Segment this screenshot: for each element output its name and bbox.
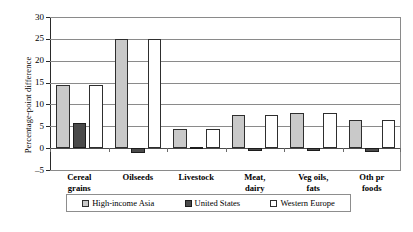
y-axis-tick-label: 30 <box>4 13 44 22</box>
y-axis-tick <box>46 17 50 18</box>
legend-swatch-icon <box>82 200 89 207</box>
bar-we <box>89 85 103 148</box>
x-axis-tick <box>50 148 51 152</box>
bar-we <box>323 113 337 148</box>
bar-we <box>206 129 220 148</box>
category-label-line1: Oilseeds <box>122 172 153 182</box>
chart-legend: High-income AsiaUnited StatesWestern Eur… <box>66 194 351 212</box>
legend-label: United States <box>195 199 241 208</box>
bar-hia <box>56 85 70 148</box>
gridline <box>50 170 401 171</box>
category-label-line2: grains <box>50 183 109 194</box>
legend-item[interactable]: United States <box>185 199 241 208</box>
category-label-line1: Cereal <box>67 172 91 182</box>
y-axis-tick-label: 20 <box>4 56 44 65</box>
legend-item[interactable]: Western Europe <box>270 199 334 208</box>
category-label-line1: Meat, <box>244 172 265 182</box>
bar-us <box>307 148 321 151</box>
bar-hia <box>290 113 304 148</box>
legend-label: High-income Asia <box>92 199 154 208</box>
x-axis-category-label: Oilseeds <box>109 172 168 183</box>
y-axis-tick-label: 25 <box>4 34 44 43</box>
bar-us <box>73 123 87 148</box>
plot-area: 302520151050–5 <box>50 17 401 170</box>
category-label-line1: Livestock <box>179 172 214 182</box>
bar-we <box>265 115 279 148</box>
y-axis-tick <box>46 61 50 62</box>
y-axis-tick-label: –5 <box>4 166 44 175</box>
x-axis-category-label: Oth prfoods <box>343 172 402 193</box>
gridline <box>50 39 401 40</box>
bar-chart: Percentage-point difference 302520151050… <box>0 0 413 232</box>
gridline <box>50 61 401 62</box>
gridline <box>50 17 401 18</box>
y-axis-line <box>50 17 51 170</box>
category-label-line2: foods <box>343 183 402 194</box>
bar-us <box>365 148 379 151</box>
x-axis-tick <box>109 148 110 152</box>
legend-swatch-icon <box>185 200 192 207</box>
bar-we <box>148 39 162 148</box>
x-axis-tick <box>226 148 227 152</box>
bar-we <box>382 120 396 148</box>
legend-label: Western Europe <box>280 199 334 208</box>
x-axis-tick <box>167 148 168 152</box>
category-label-line1: Oth pr <box>359 172 384 182</box>
x-axis-tick <box>284 148 285 152</box>
y-axis-tick <box>46 104 50 105</box>
gridline <box>50 83 401 84</box>
x-axis-category-label: Cerealgrains <box>50 172 109 193</box>
y-axis-tick <box>46 83 50 84</box>
y-axis-tick <box>46 39 50 40</box>
bar-hia <box>115 39 129 148</box>
legend-item[interactable]: High-income Asia <box>82 199 154 208</box>
y-axis-tick <box>46 170 50 171</box>
bar-us <box>248 148 262 151</box>
x-axis-category-label: Livestock <box>167 172 226 183</box>
y-axis-tick-label: 15 <box>4 78 44 87</box>
y-axis-tick-label: 10 <box>4 100 44 109</box>
bottom-clipped-text <box>6 223 126 230</box>
category-label-line1: Veg oils, <box>298 172 328 182</box>
x-axis-category-label: Veg oils,fats <box>284 172 343 193</box>
bar-hia <box>173 129 187 148</box>
category-label-line2: dairy <box>226 183 285 194</box>
category-label-line2: fats <box>284 183 343 194</box>
x-axis-category-label: Meat,dairy <box>226 172 285 193</box>
legend-swatch-icon <box>270 200 277 207</box>
x-axis-tick <box>343 148 344 152</box>
bar-hia <box>232 115 246 148</box>
x-axis-tick <box>400 148 401 152</box>
bar-us <box>190 147 204 149</box>
gridline <box>50 104 401 105</box>
y-axis-tick-label: 5 <box>4 122 44 131</box>
bar-us <box>131 148 145 152</box>
bar-hia <box>349 120 363 148</box>
y-axis-tick <box>46 126 50 127</box>
plot-right-border <box>400 17 401 170</box>
y-axis-tick-label: 0 <box>4 144 44 153</box>
